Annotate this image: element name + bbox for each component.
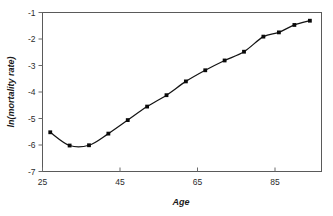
data-point: [126, 118, 130, 122]
y-tick-label: -2: [28, 34, 36, 44]
data-point: [48, 130, 52, 134]
data-point: [242, 50, 246, 54]
chart-canvas: -1-2-3-4-5-6-7 25456585 Age ln(mortality…: [0, 0, 333, 216]
data-point: [184, 80, 188, 84]
x-tick-label: 45: [115, 177, 125, 187]
data-point: [308, 19, 312, 23]
x-axis-title: Age: [171, 197, 189, 207]
x-tick-label: 25: [38, 177, 48, 187]
x-tick-label: 65: [193, 177, 203, 187]
data-point: [68, 144, 72, 148]
data-point: [87, 143, 91, 147]
data-point: [277, 30, 281, 34]
y-tick-label: -1: [28, 8, 36, 18]
chart-background: [0, 0, 333, 216]
data-point: [165, 93, 169, 97]
y-axis-title: ln(mortality rate): [6, 56, 16, 127]
mortality-chart: -1-2-3-4-5-6-7 25456585 Age ln(mortality…: [0, 0, 333, 216]
y-tick-label: -6: [28, 140, 36, 150]
y-tick-label: -7: [28, 167, 36, 177]
y-tick-label: -4: [28, 87, 36, 97]
data-point: [203, 68, 207, 72]
data-point: [145, 105, 149, 109]
data-point: [261, 35, 265, 39]
x-tick-label: 85: [270, 177, 280, 187]
y-tick-label: -5: [28, 114, 36, 124]
y-axis-title-group: ln(mortality rate): [6, 56, 16, 127]
y-tick-label: -3: [28, 61, 36, 71]
data-point: [223, 59, 227, 63]
data-point: [292, 23, 296, 27]
data-point: [106, 132, 110, 136]
